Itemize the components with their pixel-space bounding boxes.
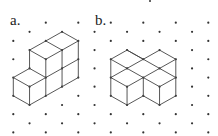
grid-dot [61, 104, 63, 106]
cube-edge [127, 78, 143, 87]
grid-dot [158, 122, 160, 124]
cube-edge [62, 59, 78, 68]
grid-dot [191, 86, 193, 88]
grid-dot [175, 131, 177, 133]
grid-dot [93, 104, 95, 106]
grid-dot [45, 131, 47, 133]
grid-dot [12, 113, 14, 115]
grid-dot [191, 31, 193, 33]
grid-dot [126, 122, 128, 124]
grid-dot [28, 122, 30, 124]
grid-dot [175, 22, 177, 24]
figure-a-cube-stack [13, 32, 78, 105]
cube-edge [127, 59, 143, 68]
grid-dot [191, 104, 193, 106]
grid-dot [93, 122, 95, 124]
cube-edge [143, 59, 159, 68]
grid-dot [142, 22, 144, 24]
grid-dot [77, 131, 79, 133]
grid-dot [207, 40, 209, 42]
cube-edge [111, 50, 127, 59]
grid-dot [207, 22, 209, 24]
panel-b-label: b. [95, 13, 106, 28]
grid-dot [77, 95, 79, 97]
grid-dot [207, 58, 209, 60]
grid-dot [12, 131, 14, 133]
cube-edge [46, 68, 62, 77]
grid-dot [93, 31, 95, 33]
cube-edge [160, 78, 176, 87]
grid-dot [126, 31, 128, 33]
grid-dot [45, 113, 47, 115]
panel-a-label: a. [10, 13, 20, 28]
cube-edge [143, 68, 159, 77]
cube-edge [46, 87, 62, 96]
grid-dot [61, 122, 63, 124]
grid-dot [77, 113, 79, 115]
grid-dot [110, 40, 112, 42]
cube-edge [13, 68, 29, 77]
grid-dot [93, 49, 95, 51]
cube-edge [160, 59, 176, 68]
cube-edge [143, 96, 159, 105]
cube-edge [111, 78, 127, 87]
cube-edge [111, 68, 127, 77]
grid-dot [207, 95, 209, 97]
grid-dot [142, 131, 144, 133]
cube-edge [13, 96, 29, 105]
cube-edge [62, 78, 78, 87]
cube-edge [143, 50, 159, 59]
grid-dot [175, 40, 177, 42]
cube-edge [160, 50, 176, 59]
cube-edge [30, 68, 46, 77]
grid-dot [191, 49, 193, 51]
cube-edge [160, 96, 176, 105]
cube-edge [30, 78, 46, 87]
grid-dot [28, 31, 30, 33]
cube-edge [46, 41, 62, 50]
cube-edge [62, 32, 78, 41]
cube-edge [111, 96, 127, 105]
cube-edge [13, 78, 29, 87]
grid-dot [110, 131, 112, 133]
cube-edge [111, 59, 127, 68]
grid-dot [110, 22, 112, 24]
grid-dot [207, 131, 209, 133]
cube-edge [46, 50, 62, 59]
cube-edge [30, 96, 46, 105]
cube-edge [30, 50, 46, 59]
cube-edge [127, 68, 143, 77]
grid-dot [45, 22, 47, 24]
grid-dot [110, 113, 112, 115]
cube-edge [160, 68, 176, 77]
grid-dot [207, 113, 209, 115]
grid-dot [191, 67, 193, 69]
cube-edge [30, 41, 46, 50]
cube-edge [143, 78, 159, 87]
cube-edge [127, 96, 143, 105]
grid-dot [207, 76, 209, 78]
cube-edge [46, 32, 62, 41]
grid-dot [12, 40, 14, 42]
grid-dot [77, 22, 79, 24]
dot-grid-canvas [0, 0, 218, 136]
grid-dot [191, 122, 193, 124]
grid-dot [142, 113, 144, 115]
grid-dot [158, 31, 160, 33]
cube-edge [127, 50, 143, 59]
grid-dot [142, 40, 144, 42]
grid-dot [93, 67, 95, 69]
grid-dot [175, 113, 177, 115]
grid-dot [93, 86, 95, 88]
cube-edge [62, 41, 78, 50]
grid-dot [149, 0, 151, 2]
grid-dot [12, 58, 14, 60]
